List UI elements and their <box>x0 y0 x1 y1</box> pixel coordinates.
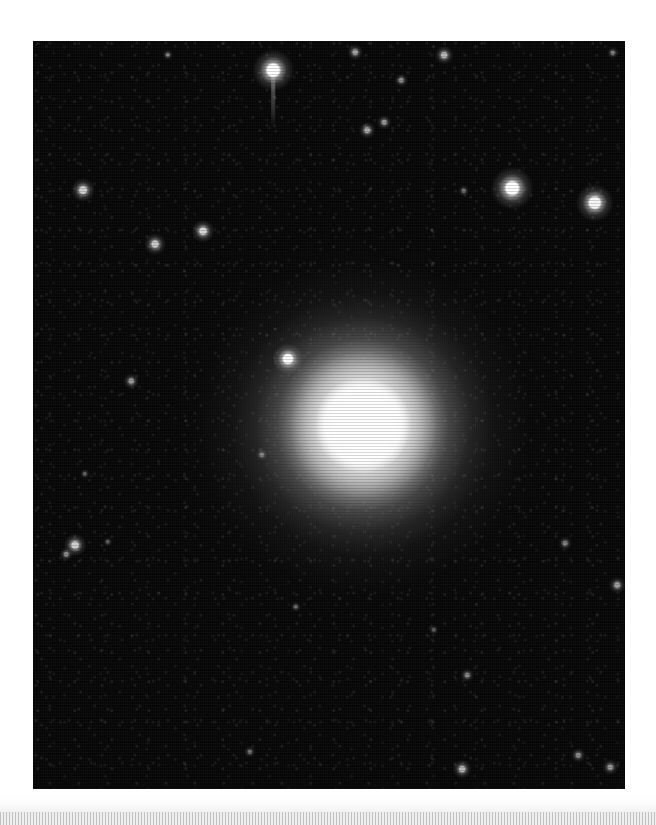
foreground-star <box>602 759 618 775</box>
foreground-star <box>272 343 303 374</box>
galaxy-mid-halo <box>231 293 495 557</box>
foreground-star <box>80 469 90 479</box>
foreground-star <box>558 536 572 550</box>
foreground-star <box>71 178 95 202</box>
foreground-star <box>256 449 268 461</box>
foreground-star <box>144 233 166 255</box>
foreground-star <box>252 49 294 91</box>
ccd-grain-fine-layer <box>33 41 625 789</box>
galaxy-outer-halo <box>167 229 559 621</box>
galaxy-inner-halo <box>277 339 449 511</box>
foreground-star <box>429 625 439 635</box>
foreground-star <box>460 668 474 682</box>
foreground-star <box>290 601 301 612</box>
bottom-texture-strip <box>0 812 656 825</box>
foreground-star <box>244 746 256 758</box>
foreground-star <box>571 748 586 763</box>
bottom-fade-band <box>0 795 656 812</box>
foreground-star <box>491 167 534 210</box>
foreground-star <box>59 547 73 561</box>
foreground-star <box>377 115 392 130</box>
foreground-star <box>394 73 408 87</box>
foreground-star <box>458 185 470 197</box>
foreground-star <box>359 122 376 139</box>
foreground-star <box>453 760 472 779</box>
foreground-star <box>162 49 173 60</box>
ccd-scanline-overlay <box>33 41 625 789</box>
foreground-star <box>103 537 113 547</box>
foreground-star <box>609 577 625 594</box>
page-canvas <box>0 0 656 825</box>
foreground-star <box>192 220 215 243</box>
foreground-star <box>64 534 87 557</box>
foreground-star <box>347 44 363 60</box>
star-bleed-trail <box>271 64 275 128</box>
astronomical-image-plate[interactable] <box>33 41 625 789</box>
foreground-star <box>576 184 614 222</box>
foreground-star <box>607 47 619 59</box>
galaxy-core <box>315 377 411 473</box>
foreground-star <box>435 46 454 65</box>
ccd-grain-blotch-layer <box>33 41 625 789</box>
foreground-star <box>123 373 139 389</box>
